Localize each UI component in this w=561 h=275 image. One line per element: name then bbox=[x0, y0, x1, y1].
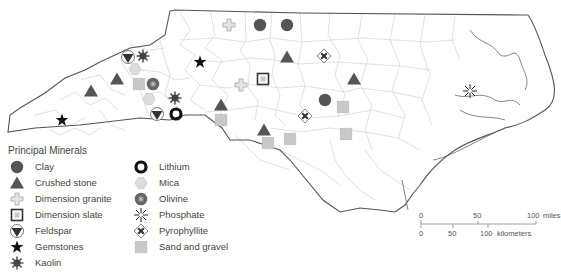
gemstones-icon bbox=[194, 56, 207, 68]
pyrophyllite-icon bbox=[134, 224, 148, 238]
kaolin-icon bbox=[169, 92, 182, 105]
scale-km-tick-100: 100 bbox=[480, 229, 493, 238]
scale-km-unit: kilometers bbox=[497, 229, 531, 238]
mica-icon bbox=[143, 94, 155, 105]
scale-miles-unit: miles bbox=[543, 211, 561, 220]
olivine-icon bbox=[147, 78, 160, 91]
olivine-icon bbox=[134, 192, 148, 206]
legend-item-dimension-slate: Dimension slate bbox=[10, 207, 103, 222]
clay-icon bbox=[319, 94, 331, 106]
scale-miles-tick-0: 0 bbox=[419, 211, 423, 220]
legend-item-clay: Clay bbox=[10, 159, 54, 174]
legend-item-phosphate: Phosphate bbox=[134, 207, 204, 222]
legend-item-gemstones: Gemstones bbox=[10, 239, 84, 254]
feldspar-icon bbox=[151, 108, 164, 121]
feldspar-icon bbox=[122, 51, 135, 64]
clay-icon bbox=[281, 19, 293, 31]
clay-icon bbox=[254, 19, 266, 31]
scale-miles-tick-50: 50 bbox=[473, 211, 481, 220]
scale-km-tick-0: 0 bbox=[419, 229, 423, 238]
clay-icon bbox=[10, 160, 24, 174]
mica-icon bbox=[129, 64, 141, 75]
dimension-granite-icon bbox=[223, 19, 235, 31]
crushed-stone-icon bbox=[10, 176, 24, 190]
legend-item-kaolin: Kaolin bbox=[10, 255, 61, 270]
legend: Principal Minerals Clay Crushed stone Di… bbox=[6, 145, 266, 273]
dimension-granite-icon bbox=[10, 192, 24, 206]
pyrophyllite-icon bbox=[298, 109, 312, 123]
crushed-stone-icon bbox=[347, 73, 361, 85]
kaolin-icon bbox=[10, 256, 24, 270]
legend-item-olivine: Olivine bbox=[134, 191, 188, 206]
lithium-icon bbox=[134, 160, 148, 174]
legend-item-crushed-stone: Crushed stone bbox=[10, 175, 97, 190]
legend-title: Principal Minerals bbox=[8, 145, 87, 156]
legend-item-dimension-granite: Dimension granite bbox=[10, 191, 112, 206]
feldspar-icon bbox=[10, 224, 24, 238]
phosphate-icon bbox=[463, 84, 477, 98]
dimension-granite-icon bbox=[235, 79, 247, 91]
crushed-stone-icon bbox=[257, 124, 271, 136]
scale-miles-tick-100: 100 bbox=[527, 211, 540, 220]
sand-gravel-icon bbox=[215, 114, 227, 126]
sand-gravel-icon bbox=[337, 101, 349, 113]
legend-item-pyrophyllite: Pyrophyllite bbox=[134, 223, 208, 238]
sand-gravel-icon bbox=[133, 78, 145, 90]
crushed-stone-icon bbox=[84, 85, 98, 97]
sand-gravel-icon bbox=[284, 133, 296, 145]
gemstones-icon bbox=[56, 114, 69, 126]
pyrophyllite-icon bbox=[317, 49, 331, 63]
scale-bar: 0 50 100 miles 0 50 100 kilometers bbox=[410, 208, 560, 248]
sand-gravel-icon bbox=[134, 240, 148, 254]
lithium-icon bbox=[171, 109, 181, 119]
scale-km-tick-50: 50 bbox=[448, 229, 456, 238]
legend-item-feldspar: Feldspar bbox=[10, 223, 72, 238]
crushed-stone-icon bbox=[110, 73, 124, 85]
sand-gravel-icon bbox=[340, 128, 352, 140]
phosphate-icon bbox=[134, 208, 148, 222]
crushed-stone-icon bbox=[280, 51, 294, 63]
gemstones-icon bbox=[10, 240, 24, 254]
legend-item-mica: Mica bbox=[134, 175, 179, 190]
kaolin-icon bbox=[137, 50, 150, 63]
legend-item-lithium: Lithium bbox=[134, 159, 190, 174]
dimension-slate-icon bbox=[258, 74, 269, 85]
mica-icon bbox=[134, 176, 148, 190]
dimension-slate-icon bbox=[10, 208, 24, 222]
mineral-sites bbox=[56, 19, 477, 149]
legend-item-sand-and-gravel: Sand and gravel bbox=[134, 239, 228, 254]
